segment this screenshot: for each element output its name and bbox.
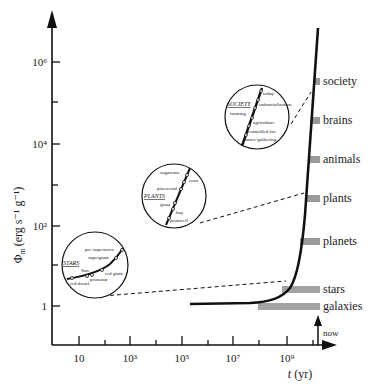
svg-text:agriculture: agriculture [253,120,275,125]
category-label: society [323,74,357,88]
svg-text:red giant: red giant [105,271,123,276]
bar-plants [306,195,320,202]
svg-text:protocell: protocell [170,218,188,223]
category-label: plants [323,191,352,205]
svg-text:pre-supernova: pre-supernova [85,247,114,252]
now-label: now [323,328,339,338]
x-tick-label: 10⁵ [175,352,190,364]
category-label: animals [323,152,361,166]
y-axis-arrow-icon [47,10,57,28]
category-labels: society brains animals plants planets st… [323,74,363,313]
svg-text:corn: corn [189,178,198,183]
x-tick-label: 10⁷ [226,352,241,364]
svg-text:protostar: protostar [90,277,108,282]
x-axis-arrow-icon [322,340,337,350]
y-tick-label: 10² [33,220,48,232]
bar-galaxies [258,303,320,310]
inset-society: today industrialization farming agricult… [225,85,292,149]
svg-text:grass: grass [160,202,170,207]
energy-rate-density-chart: 10⁶ 10⁴ 10² 1 Φm(erg s⁻¹ g⁻¹) 10 10³ 10⁵… [0,0,368,384]
svg-text:PLANTS: PLANTS [143,193,165,199]
category-label: stars [323,282,345,296]
y-tick-label: 10⁴ [32,138,47,150]
x-tick-label: 10⁹ [280,352,295,364]
category-label: brains [323,113,353,127]
bar-animals [310,156,320,163]
svg-text:controlled fire: controlled fire [248,129,277,134]
y-tick-label: 1 [42,300,48,312]
y-axis: 10⁶ 10⁴ 10² 1 Φm(erg s⁻¹ g⁻¹) [11,10,60,345]
x-axis: 10 10³ 10⁵ 10⁷ 10⁹ t(yr) [52,336,337,381]
x-axis-label: t(yr) [288,367,312,381]
category-label: galaxies [323,299,363,313]
y-axis-label: Φm(erg s⁻¹ g⁻¹) [11,187,27,264]
svg-text:red dwarf: red dwarf [70,281,90,286]
main-curve [190,28,318,304]
svg-text:today: today [263,91,275,96]
inset-plants: sugarcane corn pinewood grass hay protoc… [142,164,206,228]
category-label: planets [323,234,357,248]
svg-text:Sun: Sun [81,268,89,273]
svg-text:SOCIETY: SOCIETY [227,101,251,107]
now-marker: now [314,315,339,345]
x-tick-label: 10 [74,352,86,364]
svg-text:hunter-gathering: hunter-gathering [243,137,277,142]
svg-text:supergiant: supergiant [88,255,109,260]
svg-text:farming: farming [230,111,246,116]
svg-text:STARS: STARS [63,260,79,266]
svg-text:Φm(erg s⁻¹ g⁻¹): Φm(erg s⁻¹ g⁻¹) [11,187,27,264]
svg-text:hay: hay [176,210,184,215]
now-arrow-icon [314,315,322,326]
bar-brains [312,117,320,124]
x-tick-label: 10³ [123,352,138,364]
svg-text:sugarcane: sugarcane [160,170,181,175]
svg-text:pinewood: pinewood [157,186,177,191]
svg-text:industrialization: industrialization [259,102,292,107]
inset-stars: pre-supernova supergiant red giant Sun p… [62,232,128,298]
y-tick-label: 10⁶ [32,56,47,68]
